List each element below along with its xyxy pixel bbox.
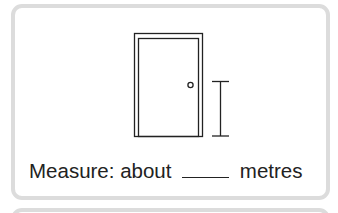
question-text: Measure: about metres [29,159,319,183]
answer-blank[interactable] [182,159,229,178]
door-outer-frame [135,34,203,137]
question-unit: metres [240,159,303,182]
height-measure-bar-icon [212,82,229,137]
door-icon [135,34,203,137]
question-prefix: Measure: about [29,159,171,182]
door-knob-icon [188,82,193,87]
